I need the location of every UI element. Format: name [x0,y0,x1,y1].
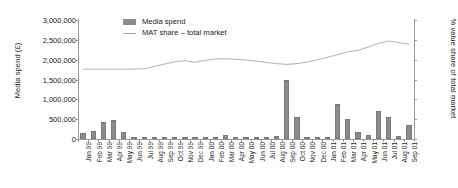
y-tick-mark [75,80,78,81]
bar-swatch-icon [123,19,136,25]
y-tick-mark-right [414,40,417,41]
x-tick-label: Jul 00 [269,142,276,159]
x-tick-label: Oct 00 [299,142,306,161]
y-tick-mark [75,60,78,61]
x-tick-label: Jan 99 [85,142,92,162]
x-tick-label: Oct 99 [177,142,184,161]
y-tick-label: 2,500,000 [43,35,76,44]
x-tick-label: Jul 99 [147,142,154,159]
y-tick-mark-right [414,99,417,100]
x-tick-label: Feb 99 [96,142,103,162]
x-tick-label: Aug 01 [401,142,408,163]
chart-legend: Media spend MAT share – total market [123,16,227,38]
y-axis-right-title: % value share of total market [449,9,458,129]
x-tick-label: Aug 99 [157,142,164,163]
x-tick-label: Sep 99 [167,142,174,163]
x-tick-label: Jun 00 [259,142,266,162]
x-tick-label: Jun 01 [381,142,388,162]
x-tick-label: Dec 99 [197,142,204,163]
y-tick-mark-right [414,80,417,81]
x-tick-label: Mar 00 [228,142,235,162]
line-swatch-icon [123,30,136,36]
y-tick-label: 3,000,000 [43,16,76,25]
x-tick-label: Nov 00 [309,142,316,163]
y-tick-label: 2,000,000 [43,55,76,64]
y-tick-label: 1,500,000 [43,75,76,84]
x-tick-label: Mar 01 [350,142,357,162]
x-tick-label: Dec 00 [320,142,327,163]
legend-item-mat-share: MAT share – total market [123,27,227,38]
x-tick-label: Feb 00 [218,142,225,162]
x-tick-label: Jun 99 [136,142,143,162]
x-tick-label: Sep 01 [411,142,418,163]
y-tick-label: 500,000 [49,115,76,124]
media-spend-mat-share-chart: Media spend (£) % value share of total m… [0,0,458,188]
legend-label-mat-share: MAT share – total market [142,27,227,38]
x-tick-label: Sep 00 [289,142,296,163]
y-tick-mark-right [414,60,417,61]
x-tick-label: Apr 99 [116,142,123,161]
x-tick-label: May 99 [126,142,133,163]
x-tick-label: May 00 [248,142,255,163]
y-tick-mark-right [414,20,417,21]
x-tick-label: May 01 [371,142,378,163]
y-axis-tick-labels: 0500,0001,000,0001,500,0002,000,0002,500… [14,14,76,144]
mat-share-polyline [83,41,409,69]
x-tick-label: Jan 00 [208,142,215,162]
x-tick-label: Nov 99 [187,142,194,163]
y-tick-mark [75,40,78,41]
y-tick-mark-right [414,119,417,120]
x-tick-label: Mar 99 [106,142,113,162]
legend-label-media-spend: Media spend [142,16,185,27]
y-tick-mark [75,119,78,120]
y-tick-mark [75,99,78,100]
x-tick-label: Jan 01 [330,142,337,162]
x-tick-label: Aug 00 [279,142,286,163]
x-tick-label: Jul 01 [391,142,398,159]
y-tick-mark [75,20,78,21]
x-tick-label: Apr 01 [360,142,367,161]
x-tick-label: Feb 01 [340,142,347,162]
legend-item-media-spend: Media spend [123,16,227,27]
x-tick-label: Apr 00 [238,142,245,161]
x-axis-tick-labels: Jan 99Feb 99Mar 99Apr 99May 99Jun 99Jul … [78,142,414,188]
y-tick-label: 1,000,000 [43,95,76,104]
